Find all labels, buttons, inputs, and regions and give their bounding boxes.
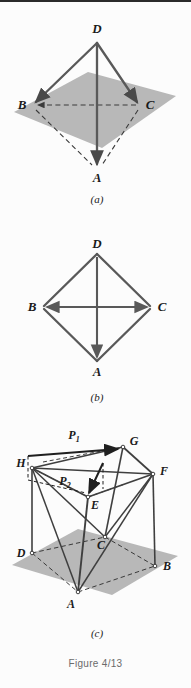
panel-b-edge-DB xyxy=(44,254,97,306)
panel-c-vertex-label-A: A xyxy=(66,597,75,611)
panel-c-vertex-dot-D xyxy=(30,551,34,555)
panel-c-vertex-dot-F xyxy=(151,472,155,476)
panel-c-vertex-label-C: C xyxy=(97,538,106,552)
panel-b-edge-CA xyxy=(97,309,150,361)
panel-c-vertex-label-E: E xyxy=(90,498,99,512)
panel-a-drawing: D B C A (a) xyxy=(0,0,191,210)
panel-b-edge-DC xyxy=(97,254,150,306)
panel-c-force-P2-arrow xyxy=(89,463,103,493)
panel-c-force-P1-arrow xyxy=(28,449,118,456)
panel-c-vertex-label-D: D xyxy=(16,546,26,560)
panel-b-edge-BA xyxy=(44,309,97,361)
panel-c-vertex-dot-B xyxy=(153,564,157,568)
figure-page: D B C A (a) D B C A (b) xyxy=(0,0,191,688)
panel-c-vertex-dot-H xyxy=(30,466,34,470)
panel-a-vertex-label-D: D xyxy=(91,21,102,36)
panel-c-edge-GC xyxy=(105,447,123,537)
panel-c-force-label-P1: P1 xyxy=(68,428,79,444)
figure-caption: Figure 4/13 xyxy=(0,658,191,669)
panel-b-vertex-label-C: C xyxy=(158,299,167,314)
panel-c-force-label-P2: P2 xyxy=(59,474,70,490)
panel-b-vertex-label-D: D xyxy=(91,236,102,251)
panel-c-vertex-label-H: H xyxy=(15,456,26,470)
panel-b-drawing: D B C A (b) xyxy=(0,235,191,410)
panel-c-drawing: P1 P2 G H F E C D B A (c) xyxy=(0,425,191,650)
panel-a-sublabel: (a) xyxy=(91,193,104,206)
panel-c-vertex-dot-E xyxy=(86,495,90,499)
panel-b-vertex-label-B: B xyxy=(27,299,37,314)
panel-b-vertex-label-A: A xyxy=(92,364,102,379)
panel-c-vertex-label-B: B xyxy=(162,559,171,573)
panel-a-vertex-label-C: C xyxy=(146,97,155,112)
panel-b-sublabel: (b) xyxy=(91,391,104,404)
panel-c-vertex-dot-A xyxy=(76,590,80,594)
panel-c-vertex-label-F: F xyxy=(159,464,168,478)
panel-c-plane xyxy=(12,529,178,595)
panel-c-edge-GF xyxy=(123,447,153,474)
panel-c-edge-EF xyxy=(88,474,153,497)
panel-a-vertex-label-B: B xyxy=(17,97,27,112)
panel-a-vertex-label-A: A xyxy=(92,170,102,185)
panel-c-sublabel: (c) xyxy=(91,627,104,640)
panel-c-edge-FC xyxy=(105,474,153,537)
panel-c-edge-HF xyxy=(32,468,153,474)
panel-c-vertex-dot-G xyxy=(121,445,125,449)
panel-c-vertex-label-G: G xyxy=(130,434,139,448)
